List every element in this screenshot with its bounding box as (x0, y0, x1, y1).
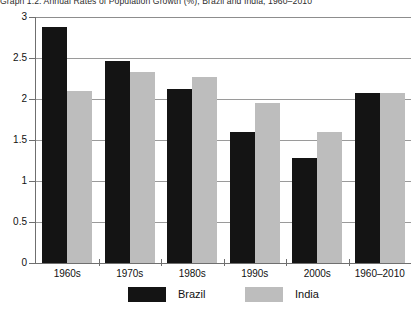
y-axis-tick (29, 222, 36, 223)
legend-swatch-india (245, 287, 283, 302)
x-axis-tick-label: 1980s (161, 267, 224, 281)
x-axis-tick-label: 1970s (99, 267, 162, 281)
bar-brazil-2000s (292, 158, 317, 263)
y-axis-tick (29, 58, 36, 59)
x-axis-labels: 1960s1970s1980s1990s2000s1960–2010 (36, 267, 411, 283)
x-axis-tick (161, 259, 162, 266)
y-axis-tick (29, 99, 36, 100)
y-axis-tick (29, 181, 36, 182)
bar-brazil-19602010 (355, 93, 380, 263)
x-axis-tick-label: 1960s (36, 267, 99, 281)
bar-groups (36, 17, 411, 263)
y-axis-tick-label: 1 (1, 176, 27, 186)
x-axis-tick (99, 259, 100, 266)
bar-brazil-1970s (105, 61, 130, 263)
x-axis-tick-label: 2000s (286, 267, 349, 281)
bar-group (99, 17, 162, 263)
legend-label-india: India (295, 287, 319, 302)
legend-swatch-brazil (128, 287, 166, 302)
bar-brazil-1980s (167, 89, 192, 263)
x-axis-tick (349, 259, 350, 266)
bar-group (349, 17, 412, 263)
bar-india-19602010 (380, 93, 405, 263)
bar-chart: 00.511.522.53 1960s1970s1980s1990s2000s1… (0, 9, 418, 312)
legend-label-brazil: Brazil (178, 287, 206, 302)
y-axis-tick-label: 3 (1, 12, 27, 22)
bar-brazil-1990s (230, 132, 255, 263)
y-axis-labels: 00.511.522.53 (0, 17, 27, 264)
x-axis-tick-label: 1960–2010 (349, 267, 412, 281)
figure-caption-text: Graph 1.2: Annual Rates of Population Gr… (0, 0, 312, 6)
y-axis-tick-label: 2 (1, 94, 27, 104)
x-axis-tick (286, 259, 287, 266)
x-axis-tick-label: 1990s (224, 267, 287, 281)
bar-india-1980s (192, 77, 217, 263)
bar-india-2000s (317, 132, 342, 263)
y-axis-tick (29, 17, 36, 18)
bar-india-1970s (130, 72, 155, 263)
bar-group (36, 17, 99, 263)
bar-group (286, 17, 349, 263)
y-axis-tick-label: 2.5 (1, 53, 27, 63)
y-axis-tick-label: 1.5 (1, 135, 27, 145)
bar-brazil-1960s (42, 27, 67, 263)
bar-group (161, 17, 224, 263)
y-axis-tick (29, 263, 36, 264)
y-axis-tick-label: 0.5 (1, 217, 27, 227)
y-axis-tick-label: 0 (1, 258, 27, 268)
chart-legend: BrazilIndia (0, 285, 418, 312)
bar-india-1960s (67, 91, 92, 263)
figure-caption: Graph 1.2: Annual Rates of Population Gr… (0, 0, 418, 9)
bar-india-1990s (255, 103, 280, 263)
y-axis-tick (29, 140, 36, 141)
bar-group (224, 17, 287, 263)
x-axis-tick (224, 259, 225, 266)
